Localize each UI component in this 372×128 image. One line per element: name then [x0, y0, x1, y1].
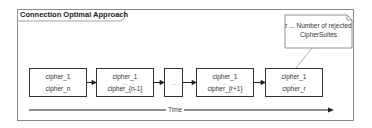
cipher-box-1: cipher_1 ... cipher_n	[29, 68, 87, 97]
time-axis-label: Time	[166, 105, 184, 114]
box-bottom-label: cipher_r	[282, 85, 305, 93]
note-line-1: r ... Number of rejected	[285, 21, 352, 30]
note-line-2: CipherSuites	[285, 30, 352, 39]
frame-title: Connection Optimal Approach	[17, 9, 138, 21]
cipher-box-4: cipher_1 ... cipher_{r+1}	[196, 68, 254, 97]
cipher-box-5: cipher_1 ... cipher_r	[265, 68, 323, 97]
box-ellipsis: ...	[171, 81, 175, 85]
box-bottom-label: cipher_{n-1}	[107, 85, 142, 93]
box-bottom-label: cipher_{r+1}	[207, 85, 242, 93]
ellipsis-box: ...	[164, 68, 183, 97]
note: r ... Number of rejected CipherSuites	[285, 21, 352, 39]
box-bottom-label: cipher_n	[46, 85, 71, 93]
cipher-box-2: cipher_1 ... cipher_{n-1}	[96, 68, 154, 97]
